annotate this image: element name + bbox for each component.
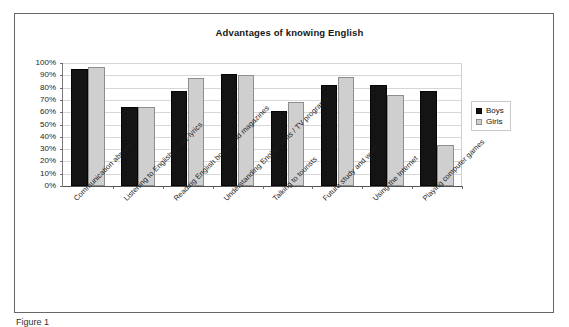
y-axis-tick-label: 0%: [18, 181, 56, 190]
bar-girls-6: [387, 95, 404, 186]
legend-item-girls: Girls: [476, 116, 504, 127]
y-tick-mark: [60, 149, 63, 150]
bar-boys-4: [271, 111, 288, 186]
bar-girls-2: [188, 78, 205, 186]
chart-title: Advantages of knowing English: [0, 27, 569, 38]
y-tick-mark: [60, 63, 63, 64]
x-tick-mark: [163, 186, 164, 189]
bar-girls-1: [138, 107, 155, 186]
y-tick-mark: [60, 100, 63, 101]
x-tick-mark: [263, 186, 264, 189]
y-tick-mark: [60, 112, 63, 113]
bar-boys-2: [171, 91, 188, 186]
y-tick-mark: [60, 161, 63, 162]
figure-caption: Figure 1: [16, 317, 49, 327]
bar-girls-7: [437, 145, 454, 186]
y-axis-tick-label: 30%: [18, 144, 56, 153]
y-tick-mark: [60, 174, 63, 175]
y-tick-mark: [60, 125, 63, 126]
legend-label-girls: Girls: [486, 117, 502, 126]
y-tick-mark: [60, 137, 63, 138]
y-tick-mark: [60, 88, 63, 89]
bar-boys-3: [221, 74, 238, 186]
bar-boys-5: [321, 85, 338, 186]
legend-swatch-girls: [476, 119, 482, 125]
gridline: [63, 63, 462, 64]
chart-legend: Boys Girls: [471, 101, 511, 131]
y-axis-tick-label: 40%: [18, 132, 56, 141]
legend-swatch-boys: [476, 108, 482, 114]
x-tick-mark: [462, 186, 463, 189]
y-tick-mark: [60, 186, 63, 187]
legend-label-boys: Boys: [486, 106, 504, 115]
y-axis-tick-label: 90%: [18, 70, 56, 79]
y-axis-tick-label: 70%: [18, 95, 56, 104]
x-tick-mark: [113, 186, 114, 189]
bar-boys-6: [370, 85, 387, 186]
y-axis-tick-label: 80%: [18, 83, 56, 92]
x-tick-mark: [213, 186, 214, 189]
bar-boys-0: [71, 69, 88, 186]
gridline: [63, 88, 462, 89]
legend-item-boys: Boys: [476, 105, 504, 116]
bar-girls-4: [288, 102, 305, 186]
bar-girls-3: [238, 75, 255, 186]
plot-area: [62, 63, 462, 187]
bar-girls-5: [338, 77, 355, 186]
x-tick-mark: [412, 186, 413, 189]
y-tick-mark: [60, 75, 63, 76]
bar-boys-1: [121, 107, 138, 186]
y-axis-tick-label: 50%: [18, 120, 56, 129]
bar-girls-0: [88, 67, 105, 186]
x-tick-mark: [312, 186, 313, 189]
x-tick-mark: [362, 186, 363, 189]
y-axis-tick-label: 10%: [18, 169, 56, 178]
bar-boys-7: [420, 91, 437, 186]
gridline: [63, 75, 462, 76]
y-axis-tick-label: 60%: [18, 107, 56, 116]
y-axis-tick-label: 100%: [18, 58, 56, 67]
y-axis-tick-label: 20%: [18, 156, 56, 165]
